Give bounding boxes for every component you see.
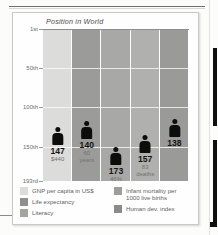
legend-column-right: Infant mortality per 1000 live birthsHum…: [114, 187, 194, 217]
axis-label-1st: 1st: [30, 26, 38, 32]
legend-item-right-1: Human dev. index: [114, 205, 194, 213]
person-icon: [110, 147, 123, 165]
person-head: [143, 135, 148, 140]
gridline-100th: [43, 107, 189, 108]
person-head: [172, 119, 177, 124]
axis-tick-50th: [39, 68, 43, 69]
axis-tick-150th: [39, 147, 43, 148]
data-marker-life-expectancy: 14060 years: [79, 121, 94, 164]
detail-value-infant-mortality: 83 deaths: [136, 164, 154, 178]
legend-swatch-icon: [20, 187, 28, 195]
detail-value-literacy: 46%: [109, 176, 123, 183]
person-head: [55, 127, 60, 132]
detail-value-life-expectancy: 60 years: [79, 150, 94, 164]
person-head: [84, 121, 89, 126]
chart-legend: GNP per capita in US$Life expectancyLite…: [20, 187, 194, 217]
person-body: [111, 153, 122, 165]
legend-item-left-1: Life expectancy: [20, 198, 108, 206]
axis-tick-1st: [39, 29, 43, 30]
page-edge-line: [209, 0, 210, 235]
data-marker-infant-mortality: 15783 deaths: [136, 135, 154, 178]
person-body: [81, 127, 92, 139]
scan-edge-artifact-bottom: [210, 222, 217, 227]
legend-item-left-2: Literacy: [20, 209, 108, 217]
rank-value-gnp-per-capita: 147: [50, 146, 64, 156]
legend-label: Infant mortality per 1000 live births: [126, 187, 176, 202]
legend-item-right-0: Infant mortality per 1000 live births: [114, 187, 194, 202]
person-icon: [139, 135, 152, 153]
person-body: [140, 141, 151, 153]
person-icon: [168, 119, 181, 137]
legend-item-left-0: GNP per capita in US$: [20, 187, 108, 195]
page-top-rule-shadow: [9, 8, 205, 9]
scan-edge-artifact-top: [213, 48, 217, 126]
person-head: [114, 147, 119, 152]
detail-value-gnp-per-capita: $440: [50, 156, 64, 163]
gridline-50th: [43, 68, 189, 69]
person-icon: [51, 127, 64, 145]
legend-label: Human dev. index: [126, 205, 175, 212]
chart-title: Position in World: [46, 17, 103, 26]
legend-swatch-icon: [20, 209, 28, 217]
rank-value-infant-mortality: 157: [136, 154, 154, 164]
page-top-rule: [9, 6, 205, 7]
person-body: [52, 133, 63, 145]
legend-swatch-icon: [114, 205, 122, 213]
legend-label: Literacy: [32, 209, 53, 216]
data-marker-literacy: 17346%: [109, 147, 123, 183]
legend-label: Life expectancy: [32, 198, 74, 205]
data-marker-gnp-per-capita: 147$440: [50, 127, 64, 163]
chart-card: Position in World 1st50th100th150th193rd…: [12, 12, 199, 225]
page-root: Position in World 1st50th100th150th193rd…: [0, 0, 218, 235]
chart-column-human-dev-index: [160, 29, 189, 181]
scan-edge-artifact-middle: [213, 140, 217, 222]
legend-swatch-icon: [20, 198, 28, 206]
legend-swatch-icon: [114, 187, 122, 195]
axis-tick-100th: [39, 107, 43, 108]
axis-label-50th: 50th: [26, 65, 38, 71]
person-body: [169, 125, 180, 137]
rank-value-life-expectancy: 140: [79, 140, 94, 150]
person-icon: [80, 121, 93, 139]
rank-value-human-dev-index: 138: [167, 138, 181, 148]
gridline-1st: [43, 29, 189, 30]
axis-label-150th: 150th: [23, 144, 38, 150]
chart-plot-area: 1st50th100th150th193rd147$44014060 years…: [43, 29, 189, 181]
rank-value-literacy: 173: [109, 166, 123, 176]
legend-label: GNP per capita in US$: [32, 187, 94, 194]
axis-label-193rd: 193rd: [23, 178, 38, 184]
axis-label-100th: 100th: [23, 104, 38, 110]
data-marker-human-dev-index: 138: [167, 119, 181, 148]
axis-tick-193rd: [39, 181, 43, 182]
legend-column-left: GNP per capita in US$Life expectancyLite…: [20, 187, 108, 217]
